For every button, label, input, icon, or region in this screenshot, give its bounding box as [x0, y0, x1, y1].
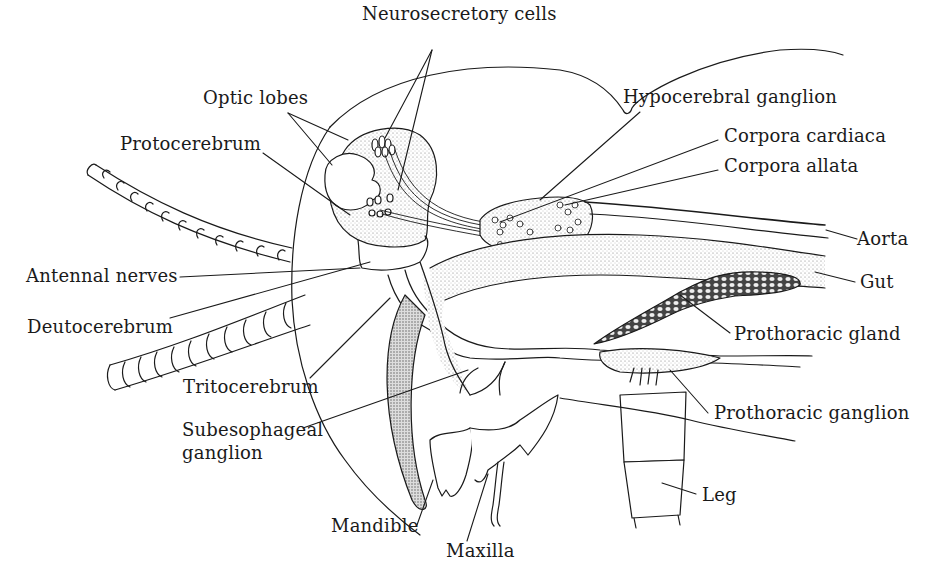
label-deutocerebrum: Deutocerebrum — [27, 317, 173, 337]
label-protocerebrum: Protocerebrum — [120, 134, 261, 154]
label-prothoracic-ganglion: Prothoracic ganglion — [714, 403, 910, 423]
label-optic-lobes: Optic lobes — [203, 88, 308, 108]
label-prothoracic-gland: Prothoracic gland — [734, 324, 901, 344]
label-neurosecretory-cells: Neurosecretory cells — [362, 4, 557, 24]
insect-neuroendocrine-diagram: Neurosecretory cells Optic lobes Protoce… — [0, 0, 932, 574]
label-mandible: Mandible — [331, 516, 419, 536]
label-aorta: Aorta — [857, 229, 908, 249]
label-corpora-cardiaca: Corpora cardiaca — [724, 126, 886, 146]
label-gut: Gut — [860, 272, 894, 292]
label-hypocerebral-ganglion: Hypocerebral ganglion — [623, 87, 837, 107]
frons-crescent — [387, 295, 426, 509]
mandible — [430, 428, 472, 496]
upper-antenna — [87, 164, 292, 262]
label-tritocerebrum: Tritocerebrum — [183, 377, 319, 397]
label-leg: Leg — [702, 485, 737, 505]
label-corpora-allata: Corpora allata — [724, 156, 858, 176]
aorta — [585, 202, 828, 238]
label-subesophageal-ganglion: Subesophageal ganglion — [182, 418, 322, 464]
label-antennal-nerves: Antennal nerves — [26, 266, 178, 286]
maxilla — [470, 395, 558, 526]
label-maxilla: Maxilla — [446, 541, 515, 561]
